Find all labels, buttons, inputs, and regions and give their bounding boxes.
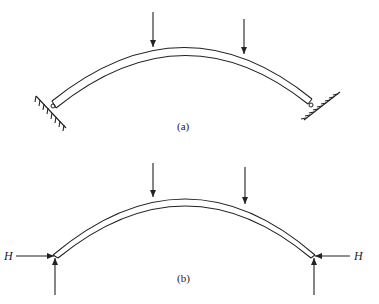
left-fixed-support-icon xyxy=(35,96,66,131)
panel-label-b: (b) xyxy=(177,272,190,285)
panel-b: H H (b) xyxy=(3,163,364,295)
right-fixed-support-icon xyxy=(301,92,340,120)
panel-label-a: (a) xyxy=(177,120,190,133)
thrust-label-left: H xyxy=(3,249,14,263)
arch-b xyxy=(53,199,315,258)
panel-a: (a) xyxy=(35,12,340,133)
arch-a xyxy=(52,47,312,108)
arch-diagram: (a) H H (b) xyxy=(0,0,379,304)
thrust-label-right: H xyxy=(353,249,364,263)
